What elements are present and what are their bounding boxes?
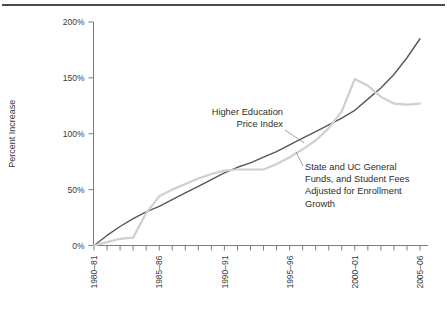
x-tick-label: 1995–96 bbox=[285, 255, 295, 288]
series-line-1 bbox=[94, 39, 420, 246]
line-chart: 0%50%100%150%200%Percent Increase1980–81… bbox=[0, 0, 447, 311]
x-tick-group: 1980–811985–861990–911995–962000–012005–… bbox=[89, 246, 425, 289]
y-tick-label: 0% bbox=[72, 241, 85, 251]
annotation-line: Adjusted for Enrollment bbox=[305, 186, 402, 196]
annotation-line: Higher Education bbox=[212, 107, 283, 117]
annotation-line: Price Index bbox=[236, 119, 283, 129]
axes-group bbox=[94, 22, 429, 246]
x-tick-label: 1985–86 bbox=[154, 255, 164, 288]
annotation-line: Funds, and Student Fees bbox=[305, 174, 410, 184]
x-tick-label: 1980–81 bbox=[89, 255, 99, 288]
y-tick-group: 0%50%100%150%200% bbox=[63, 17, 94, 251]
y-tick-label: 150% bbox=[63, 73, 85, 83]
annotation-state-uc-label: State and UC GeneralFunds, and Student F… bbox=[296, 152, 410, 209]
y-axis-title-text: Percent Increase bbox=[7, 100, 17, 168]
annotation-line: Growth bbox=[305, 199, 335, 209]
x-tick-label: 2000–01 bbox=[350, 255, 360, 288]
annotation-leader-line bbox=[285, 130, 304, 143]
y-tick-label: 200% bbox=[63, 17, 85, 27]
x-tick-label: 1990–91 bbox=[220, 255, 230, 288]
annotation-line: State and UC General bbox=[305, 162, 396, 172]
annotation-leader-line bbox=[296, 152, 303, 166]
annotation-hepi-label: Higher EducationPrice Index bbox=[212, 107, 304, 143]
x-tick-label: 2005–06 bbox=[415, 255, 425, 288]
figure-container: 0%50%100%150%200%Percent Increase1980–81… bbox=[0, 0, 447, 311]
y-tick-label: 100% bbox=[63, 129, 85, 139]
y-tick-label: 50% bbox=[67, 185, 84, 195]
